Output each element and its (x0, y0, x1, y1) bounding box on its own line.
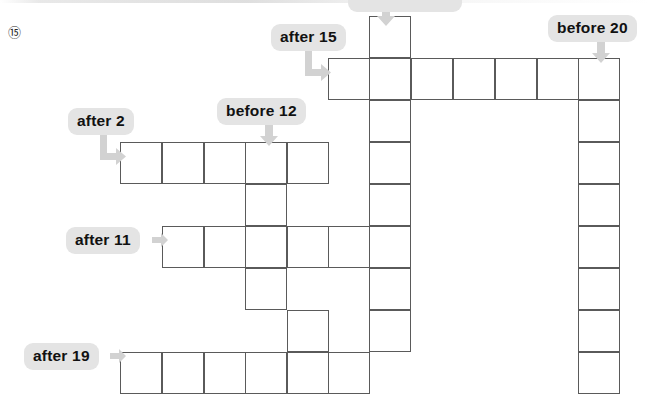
clue-after-19-arrow-icon (110, 349, 126, 363)
cell-r3-c0[interactable] (120, 142, 162, 184)
cell-r6-c11[interactable] (578, 268, 620, 310)
cell-r3-c6[interactable] (369, 142, 411, 184)
cell-r1-c8[interactable] (453, 58, 495, 100)
cell-r4-c6[interactable] (369, 184, 411, 226)
clue-after-2-arrow-icon (100, 133, 126, 167)
clue-before-12-arrow-icon (259, 124, 279, 146)
cell-r3-c3[interactable] (245, 142, 287, 184)
cell-r5-c5[interactable] (328, 226, 370, 268)
clue-before-12: before 12 (217, 98, 306, 125)
cell-r7-c4[interactable] (287, 310, 329, 352)
cell-r5-c2[interactable] (204, 226, 246, 268)
clue-after-19: after 19 (24, 343, 99, 370)
cell-r3-c2[interactable] (204, 142, 246, 184)
cell-r3-c11[interactable] (578, 142, 620, 184)
cell-r5-c3[interactable] (245, 226, 287, 268)
cell-r1-c7[interactable] (411, 58, 453, 100)
cell-r7-c11[interactable] (578, 310, 620, 352)
clue-before-20-arrow-icon (591, 41, 611, 63)
cell-r1-c6[interactable] (369, 58, 411, 100)
cell-r4-c3[interactable] (245, 184, 287, 226)
cell-r8-c3[interactable] (245, 352, 287, 394)
clue-after-15-arrow-icon (305, 49, 331, 83)
cell-r1-c9[interactable] (495, 58, 537, 100)
cell-r8-c0[interactable] (120, 352, 162, 394)
scan-artifact-line (0, 0, 650, 3)
cell-r6-c6[interactable] (369, 268, 411, 310)
clue-after-11: after 11 (66, 227, 140, 254)
cell-r3-c1[interactable] (162, 142, 204, 184)
cell-r8-c2[interactable] (204, 352, 246, 394)
clue-after-11-arrow-icon (152, 233, 168, 247)
cell-r4-c11[interactable] (578, 184, 620, 226)
question-number: ⑮ (8, 26, 21, 39)
cell-r1-c5[interactable] (328, 58, 370, 100)
cell-r5-c1[interactable] (162, 226, 204, 268)
clue-after-15: after 15 (271, 24, 346, 51)
cell-r8-c1[interactable] (162, 352, 204, 394)
cell-r5-c6[interactable] (369, 226, 411, 268)
cell-r6-c3[interactable] (245, 268, 287, 310)
cell-r2-c6[interactable] (369, 100, 411, 142)
cell-r5-c4[interactable] (287, 226, 329, 268)
cell-r7-c6[interactable] (369, 310, 411, 352)
cell-r3-c4[interactable] (287, 142, 329, 184)
cell-r8-c4[interactable] (287, 352, 329, 394)
clue-top-clipped (348, 0, 462, 12)
cell-r1-c11[interactable] (578, 58, 620, 100)
cell-r8-c5[interactable] (328, 352, 370, 394)
cell-r2-c11[interactable] (578, 100, 620, 142)
clue-before-20: before 20 (548, 15, 637, 42)
clue-after-2: after 2 (68, 108, 134, 135)
cell-r1-c10[interactable] (537, 58, 579, 100)
cell-r5-c11[interactable] (578, 226, 620, 268)
cell-r8-c11[interactable] (578, 352, 620, 394)
